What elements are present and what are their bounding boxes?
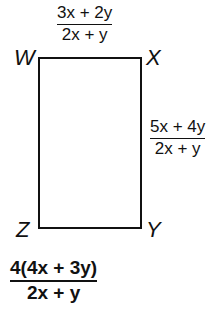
answer-denominator: 2x + y <box>27 283 80 303</box>
top-side-numerator: 3x + 2y <box>57 4 112 22</box>
top-side-length: 3x + 2y 2x + y <box>57 4 112 44</box>
rectangle-wxyz <box>38 57 142 229</box>
right-side-length: 5x + 4y 2x + y <box>150 118 205 158</box>
answer-fraction: 4(4x + 3y) 2x + y <box>10 258 97 303</box>
right-side-numerator: 5x + 4y <box>150 118 205 136</box>
vertex-label-z: Z <box>16 219 29 241</box>
vertex-label-w: W <box>14 47 35 69</box>
top-side-denominator: 2x + y <box>62 26 108 44</box>
vertex-label-y: Y <box>146 219 161 241</box>
vertex-label-x: X <box>146 47 161 69</box>
right-side-denominator: 2x + y <box>155 140 201 158</box>
answer-numerator: 4(4x + 3y) <box>10 258 97 278</box>
